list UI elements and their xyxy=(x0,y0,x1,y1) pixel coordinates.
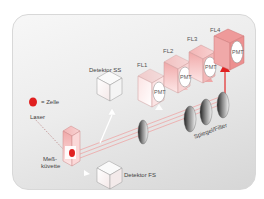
laser-beam-line xyxy=(34,118,64,150)
pmt-fl1 xyxy=(138,69,165,107)
pmt-fl4-label: PMT xyxy=(232,49,244,56)
fl3-label: FL3 xyxy=(187,36,197,43)
legend-cell-label: = Zelle xyxy=(41,99,59,106)
fl4-label: FL4 xyxy=(210,27,220,34)
pmt-fl1-label: PMT xyxy=(154,89,166,96)
cell-legend-dot xyxy=(29,98,37,107)
cell-in-cuvette xyxy=(69,149,75,157)
detector-ss-box xyxy=(97,71,122,101)
fl1-label: FL1 xyxy=(137,62,147,69)
optical-path-diagram xyxy=(0,0,264,199)
lens-1 xyxy=(138,120,148,144)
mirror-filter-1 xyxy=(184,106,196,132)
detector-fs-label: Detektor FS xyxy=(124,172,156,179)
mirror-filter-3 xyxy=(217,92,229,118)
pmt-fl2-label: PMT xyxy=(180,74,192,81)
cuvette xyxy=(63,126,80,166)
cuvette-label-line2: küvette xyxy=(41,163,60,170)
laser-label: Laser xyxy=(30,114,45,121)
mirror-filter-2 xyxy=(200,99,212,125)
cuvette-label-line1: Meß- xyxy=(43,156,57,163)
detector-ss-label: Detektor SS xyxy=(89,67,121,74)
pmt-fl3-label: PMT xyxy=(205,64,217,71)
fl2-label: FL2 xyxy=(163,48,173,55)
detector-fs-box xyxy=(97,161,122,189)
